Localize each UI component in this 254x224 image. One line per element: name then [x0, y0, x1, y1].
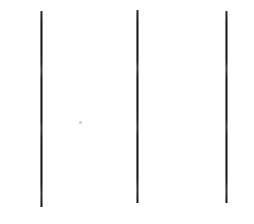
- faint-speck: [79, 121, 82, 124]
- left-vertical-line: [40, 11, 43, 207]
- drawing-canvas: [0, 0, 254, 224]
- right-vertical-line: [225, 11, 228, 203]
- middle-vertical-line: [136, 10, 139, 203]
